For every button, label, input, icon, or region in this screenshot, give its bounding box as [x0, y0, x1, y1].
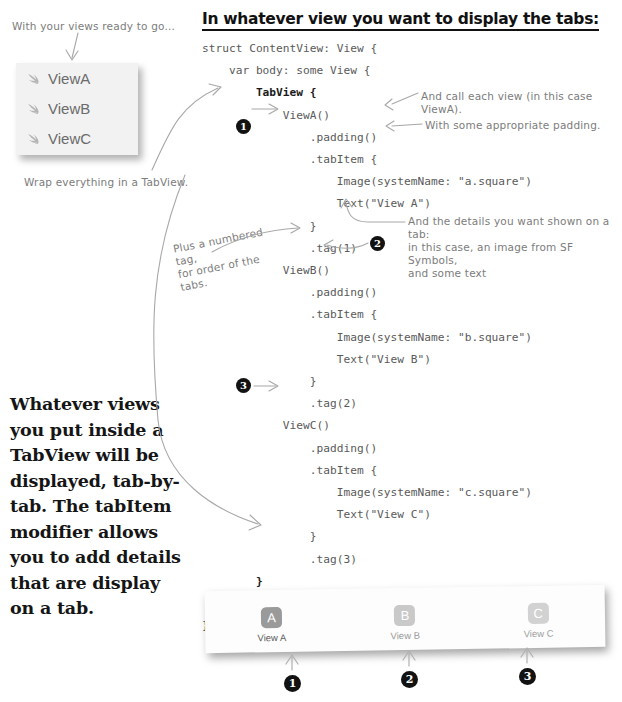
annotation-views-ready: With your views ready to go...: [12, 20, 175, 33]
tab-view-a[interactable]: A View A: [205, 606, 339, 644]
code-marker-3: 3: [236, 378, 251, 393]
code-marker-1: 1: [236, 119, 251, 134]
list-item[interactable]: ViewC: [16, 123, 138, 153]
code-line: .padding(): [202, 282, 532, 304]
code-line: }: [202, 526, 532, 548]
code-marker-2: 2: [370, 236, 385, 251]
code-line: struct ContentView: View {: [202, 38, 532, 60]
code-line: ViewC(): [202, 415, 532, 437]
tab-label: View A: [205, 631, 338, 644]
code-line: Image(systemName: "b.square"): [202, 327, 532, 349]
annotation-appropriate-padding: With some appropriate padding.: [425, 119, 601, 132]
swift-bird-icon: [26, 71, 41, 86]
tab-marker-2: 2: [401, 671, 418, 688]
code-line: .tabItem {: [202, 149, 532, 171]
code-line: Image(systemName: "c.square"): [202, 482, 532, 504]
annotation-wrap-everything: Wrap everything in a TabView.: [24, 176, 188, 189]
swift-bird-icon: [26, 131, 41, 146]
c-square-icon: C: [528, 603, 549, 624]
code-line: Text("View B"): [202, 349, 532, 371]
list-item-label: ViewC: [48, 130, 91, 147]
tab-label: View C: [472, 627, 605, 640]
code-line: Text("View C"): [202, 504, 532, 526]
swift-bird-icon: [26, 101, 41, 116]
code-line: .tag(3): [202, 549, 532, 571]
file-list-card: ViewA ViewB ViewC: [16, 63, 138, 155]
tab-label: View B: [339, 629, 472, 642]
page-title: In whatever view you want to display the…: [202, 10, 599, 31]
code-line: }: [202, 371, 532, 393]
annotation-call-each-view: And call each view (in this case ViewA).: [421, 90, 622, 116]
code-line: .tag(2): [202, 393, 532, 415]
tab-marker-1: 1: [284, 675, 301, 692]
list-item-label: ViewA: [48, 70, 90, 87]
list-item[interactable]: ViewB: [16, 93, 138, 123]
list-item-label: ViewB: [48, 100, 90, 117]
tab-view-c[interactable]: C View C: [471, 602, 605, 640]
page-root: With your views ready to go... ViewA Vie…: [0, 0, 622, 702]
code-line: .tabItem {: [202, 304, 532, 326]
list-item[interactable]: ViewA: [16, 63, 138, 93]
code-line: Text("View A"): [202, 193, 532, 215]
tab-bar-mockup: A View A B View B C View C: [205, 585, 606, 653]
code-line: .padding(): [202, 438, 532, 460]
annotation-details-shown: And the details you want shown on a tab:…: [408, 215, 622, 280]
code-line: .tabItem {: [202, 460, 532, 482]
code-line: Image(systemName: "a.square"): [202, 171, 532, 193]
tab-marker-3: 3: [519, 668, 536, 685]
tab-view-b[interactable]: B View B: [338, 604, 472, 642]
code-line: var body: some View {: [202, 60, 532, 82]
b-square-icon: B: [394, 605, 415, 626]
body-paragraph: Whatever views you put inside a TabView …: [10, 392, 182, 622]
a-square-icon: A: [261, 607, 282, 628]
